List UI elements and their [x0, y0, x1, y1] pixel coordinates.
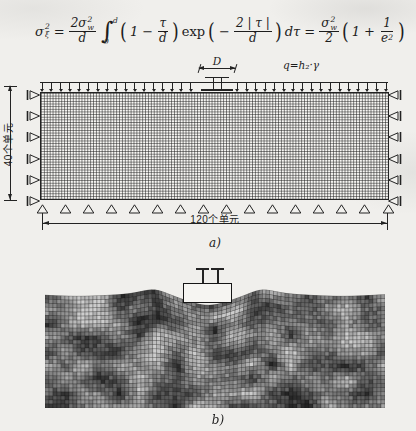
load-arrow-icon — [86, 83, 91, 92]
pin-support-icon — [82, 199, 95, 209]
fraction: 2σ2w d — [69, 16, 96, 47]
load-arrow-icon — [263, 83, 268, 92]
pin-support-icon — [335, 199, 348, 209]
dim-bottom-ext-right — [387, 211, 388, 230]
load-arrow-icon — [318, 83, 323, 92]
load-arrow-icon — [105, 83, 110, 92]
caption-b: b) — [198, 413, 238, 427]
load-arrow-icon — [67, 83, 72, 92]
footing-b-column-left — [202, 268, 204, 284]
pin-support-icon — [358, 199, 371, 209]
roller-support-right-icon — [388, 107, 403, 119]
roller-support-left-icon — [25, 107, 40, 119]
load-arrow-icon — [58, 83, 63, 92]
pin-support-icon — [382, 199, 395, 209]
load-arrow-icon — [188, 83, 193, 92]
pin-support-icon — [151, 199, 164, 209]
load-arrow-icon — [170, 83, 175, 92]
pin-support-icon — [59, 199, 72, 209]
dim-left-tick-top — [4, 86, 17, 87]
equation-variance-local-average: σ2ξ = 2σ2w d ∫ d 0 ( 1 − τ d ) exp ( − 2… — [28, 8, 412, 54]
load-arrow-icon — [346, 83, 351, 92]
load-arrow-icon — [272, 83, 277, 92]
load-arrow-icon — [300, 83, 305, 92]
roller-support-left-icon — [25, 171, 40, 183]
load-arrow-icon — [337, 83, 342, 92]
load-arrow-icon — [151, 83, 156, 92]
pin-support-icon — [243, 199, 256, 209]
roller-support-right-icon — [388, 171, 403, 183]
pin-support-icon — [105, 199, 118, 209]
load-arrow-icon — [309, 83, 314, 92]
roller-support-right-icon — [388, 128, 403, 140]
footing-cap — [205, 77, 229, 79]
surcharge-label: q=h₂·γ — [283, 59, 319, 71]
pin-support-icon — [197, 199, 210, 209]
document-page: σ2ξ = 2σ2w d ∫ d 0 ( 1 − τ d ) exp ( − 2… — [0, 0, 416, 431]
roller-support-right-icon — [388, 150, 403, 162]
load-arrow-icon — [291, 83, 296, 92]
fraction: 1 e2 — [379, 17, 395, 46]
dim-bottom-arrow-right-icon — [381, 221, 387, 225]
pin-support-icon — [266, 199, 279, 209]
dim-left-label: 40个单元 — [0, 115, 15, 175]
pin-support-icon — [220, 199, 233, 209]
load-arrow-icon — [142, 83, 147, 92]
load-arrow-icon — [235, 83, 240, 92]
dim-D-label: D — [205, 55, 229, 67]
pin-support-icon — [36, 199, 49, 209]
roller-support-left-icon — [25, 150, 40, 162]
fraction: 2 | τ | d — [234, 17, 272, 46]
caption-a: a) — [195, 236, 235, 250]
load-arrow-icon — [281, 83, 286, 92]
roller-support-left-icon — [25, 128, 40, 140]
fe-mesh-figure-a — [40, 92, 389, 200]
load-arrow-icon — [356, 83, 361, 92]
pin-support-icon — [312, 199, 325, 209]
load-arrow-icon — [123, 83, 128, 92]
pin-support-icon — [289, 199, 302, 209]
load-arrow-icon — [253, 83, 258, 92]
load-arrow-icon — [132, 83, 137, 92]
load-arrow-icon — [95, 83, 100, 92]
footing-base — [201, 89, 233, 91]
fraction: τ d — [157, 17, 169, 46]
footing-b-column-right — [217, 268, 219, 284]
load-arrow-icon — [40, 83, 45, 92]
sigma-xi-squared: σ2ξ — [35, 23, 50, 39]
load-arrow-icon — [365, 83, 370, 92]
dim-bottom-arrow-left-icon — [43, 221, 49, 225]
footing-block-b — [183, 283, 232, 303]
pin-support-icon — [174, 199, 187, 209]
load-arrow-icon — [179, 83, 184, 92]
load-arrow-icon — [160, 83, 165, 92]
load-arrow-icon — [328, 83, 333, 92]
load-arrow-icon — [114, 83, 119, 92]
roller-support-left-icon — [25, 86, 40, 98]
roller-support-right-icon — [388, 86, 403, 98]
dim-left-tick-bottom — [4, 200, 17, 201]
load-arrow-icon — [374, 83, 379, 92]
integral-sign: ∫ d 0 — [101, 19, 115, 43]
load-arrow-icon — [77, 83, 82, 92]
pin-support-icon — [128, 199, 141, 209]
load-arrow-icon — [49, 83, 54, 92]
fraction: σ2w 2 — [319, 16, 339, 47]
load-arrow-icon — [244, 83, 249, 92]
